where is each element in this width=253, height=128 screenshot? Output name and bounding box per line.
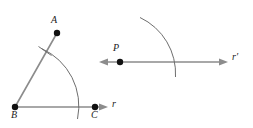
point-P bbox=[117, 59, 123, 65]
construction-arc-right bbox=[140, 18, 176, 78]
point-A bbox=[54, 30, 60, 36]
geometry-figure: A B C r P r′ bbox=[0, 0, 253, 128]
arrowhead-left-r-prime bbox=[99, 59, 108, 66]
arrowhead-right-r-prime bbox=[219, 59, 228, 66]
label-line-r-prime: r′ bbox=[232, 52, 238, 62]
left-diagram-group bbox=[12, 30, 108, 119]
label-point-B: B bbox=[11, 110, 17, 120]
label-point-C: C bbox=[91, 110, 98, 120]
figure-canvas bbox=[0, 0, 253, 128]
arrowhead-ray-r bbox=[99, 104, 108, 111]
label-point-A: A bbox=[51, 15, 57, 25]
ray-BA bbox=[15, 33, 57, 107]
construction-arc-left bbox=[42, 49, 79, 120]
label-point-P: P bbox=[113, 43, 119, 53]
label-ray-r: r bbox=[112, 99, 116, 109]
